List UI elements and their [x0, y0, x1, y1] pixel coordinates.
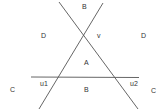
label-C-left: C [10, 86, 15, 93]
label-A: A [84, 59, 89, 66]
label-D-left: D [41, 32, 46, 39]
label-u1: u1 [40, 80, 48, 87]
label-B-bottom: B [84, 86, 89, 93]
diagram-svg: BDvDAu1Bu2CC [0, 0, 165, 111]
label-u2: u2 [130, 80, 138, 87]
label-B-top: B [82, 3, 87, 10]
label-D-right: D [141, 32, 146, 39]
label-C-right: C [151, 87, 156, 94]
line-horizontal [31, 77, 139, 78]
diagram-canvas: BDvDAu1Bu2CC [0, 0, 165, 111]
diagram-labels: BDvDAu1Bu2CC [10, 3, 156, 94]
label-v: v [97, 32, 101, 39]
